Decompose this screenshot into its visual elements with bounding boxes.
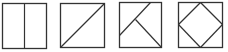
dividing-line	[61, 4, 105, 48]
dividing-line	[201, 25, 223, 48]
dividing-line	[179, 3, 201, 25]
figure-square-vertical-split	[3, 4, 47, 49]
dividing-line	[136, 20, 162, 48]
square-outline	[179, 3, 223, 48]
dividing-line	[179, 25, 201, 48]
dividing-line	[201, 3, 223, 25]
figure-square-inscribed-diamond	[179, 3, 223, 48]
diagram-canvas	[0, 0, 228, 52]
figure-square-three-piece-split	[120, 3, 162, 48]
figure-square-diagonal-split	[61, 4, 105, 48]
